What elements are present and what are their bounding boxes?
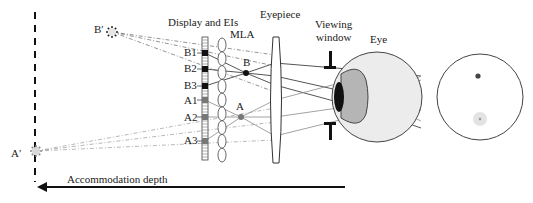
virtual-point-a-prime [30, 145, 42, 157]
display-panel [202, 37, 208, 160]
eyepiece-lens [271, 37, 282, 163]
virtual-point-dot [35, 145, 37, 147]
virtual-point-dot [35, 155, 37, 157]
label-elemental-image-a3: A3 [184, 134, 198, 146]
elemental-image-pixel-b2 [202, 66, 208, 72]
virtual-point-core [32, 147, 40, 155]
elemental-image-pixel-a1 [202, 97, 208, 103]
label-a-prime: A′ [11, 147, 21, 159]
virtual-point-dot [106, 31, 108, 33]
microlens [218, 107, 226, 121]
label-elemental-image-a1: A1 [184, 94, 197, 106]
label-viewing-window-line1: Viewing [315, 18, 353, 30]
microlens [218, 93, 226, 107]
microlens [218, 38, 226, 52]
microlens [218, 79, 226, 93]
label-elemental-image-b3: B3 [184, 79, 197, 91]
viewing-window-top-stop-bar [324, 66, 336, 69]
virtual-point-dot [107, 27, 109, 29]
virtual-point-dot [30, 150, 32, 152]
elemental-image-pixel-b3 [202, 83, 208, 89]
label-a: A [236, 100, 244, 112]
label-eyepiece: Eyepiece [260, 8, 300, 20]
virtual-point-dot [115, 35, 117, 37]
virtual-ray-a-prime [36, 140, 275, 151]
label-accommodation-depth: Accommodation depth [67, 173, 168, 185]
virtual-point-dot [31, 154, 33, 156]
virtual-point-dot [116, 31, 118, 33]
accommodation-depth-arrowhead [37, 182, 47, 192]
point-a [238, 114, 244, 120]
label-mla: MLA [230, 28, 255, 40]
viewing-window-top-stop-post [329, 51, 332, 67]
label-elemental-image-b2: B2 [184, 62, 197, 74]
retina-point-a-center [479, 118, 482, 121]
point-b [243, 70, 249, 76]
viewing-window-bottom-stop-post [329, 124, 332, 140]
label-elemental-image-b1: B1 [184, 46, 197, 58]
virtual-point-dot [111, 36, 113, 38]
virtual-point-core [108, 28, 116, 36]
virtual-point-dot [39, 146, 41, 148]
microlens-array [218, 38, 226, 162]
virtual-point-dot [31, 146, 33, 148]
elemental-image-pixel-a3 [202, 138, 208, 144]
microlens [218, 134, 226, 148]
microlens [218, 52, 226, 66]
elemental-image-pixel-a2 [202, 114, 208, 120]
microlens [218, 66, 226, 80]
label-display-and-eis: Display and EIs [168, 16, 238, 28]
integral-imaging-diagram: Display and EIs MLA Eyepiece Viewing win… [0, 0, 533, 203]
virtual-point-dot [107, 35, 109, 37]
virtual-ray-a-prime [36, 122, 275, 151]
retina-view-circle [437, 54, 523, 140]
eye [332, 52, 422, 142]
virtual-point-b-prime [106, 26, 118, 38]
label-b: B [243, 56, 250, 68]
label-b-prime: B′ [94, 23, 104, 35]
virtual-point-dot [40, 150, 42, 152]
label-eye: Eye [370, 33, 387, 45]
eye-lens [341, 69, 368, 123]
retina-point-b-sharp [475, 73, 480, 78]
label-elemental-image-a2: A2 [184, 111, 197, 123]
retina-view [437, 54, 523, 140]
elemental-image-pixel-b1 [202, 50, 208, 56]
virtual-point-dot [115, 27, 117, 29]
microlens [218, 148, 226, 162]
virtual-ray-a-prime [36, 108, 275, 151]
label-viewing-window-line2: window [316, 31, 352, 43]
pupil [334, 82, 344, 112]
microlens [218, 121, 226, 135]
virtual-point-dot [39, 154, 41, 156]
virtual-point-dot [111, 26, 113, 28]
